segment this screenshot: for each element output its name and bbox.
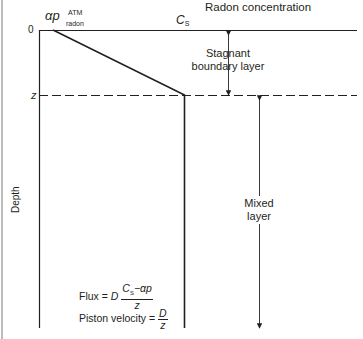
depth-z-label: z <box>31 89 37 101</box>
atmospheric-radon-label: αp <box>45 10 60 22</box>
flux-fraction: CS−αp z <box>121 283 153 311</box>
stagnant-label-line1: Stagnant <box>192 47 265 60</box>
flux-lhs: Flux = <box>79 290 111 302</box>
stagnant-layer-label: Stagnant boundary layer <box>192 47 265 73</box>
flux-equation: Flux = D CS−αp z <box>79 283 153 311</box>
depth-zero-label: 0 <box>28 24 34 36</box>
mixed-label-line1: Mixed <box>244 197 273 210</box>
flux-numerator: CS−αp <box>121 283 153 300</box>
diagram-canvas <box>0 0 363 339</box>
mixed-label-line2: layer <box>244 210 273 223</box>
atmospheric-radon-superscript: ATM <box>68 9 82 17</box>
piston-velocity-equation: Piston velocity = D z <box>79 308 168 331</box>
y-axis-label: Depth <box>10 186 22 213</box>
surface-concentration-label: CS <box>176 14 189 30</box>
stagnant-label-line2: boundary layer <box>192 60 265 73</box>
atmospheric-radon-subscript: radon <box>66 20 84 28</box>
piston-denominator: z <box>158 320 168 331</box>
piston-lhs: Piston velocity = <box>79 312 158 324</box>
chart-title: Radon concentration <box>205 1 311 13</box>
mixed-layer-label: Mixed layer <box>244 196 273 224</box>
flux-coefficient: D <box>111 290 119 302</box>
piston-fraction: D z <box>158 308 168 331</box>
